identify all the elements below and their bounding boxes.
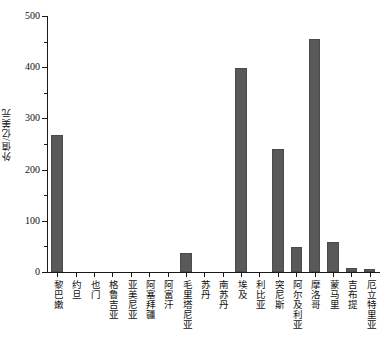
x-axis-tick [351, 273, 352, 277]
x-axis-label: 阿富汗 [163, 280, 173, 310]
y-axis-tick-label-wrap: 200 [12, 170, 40, 171]
x-axis-tick [131, 273, 132, 277]
y-axis-tick-major [42, 67, 47, 68]
y-axis-tick-label-wrap: 0 [12, 272, 40, 273]
y-axis-tick-label: 100 [14, 215, 40, 226]
x-axis-tick [112, 273, 113, 277]
x-axis-tick [315, 273, 316, 277]
bar [346, 268, 357, 272]
y-axis-tick-label-wrap: 100 [12, 221, 40, 222]
y-axis-tick-label: 0 [14, 266, 40, 277]
x-axis-label: 阿尔及利亚 [292, 280, 302, 330]
x-axis-tick [333, 273, 334, 277]
x-axis-tick [168, 273, 169, 277]
x-axis-label: 亚美尼亚 [126, 280, 136, 320]
bar [272, 149, 283, 272]
x-axis-label: 苏丹 [200, 280, 210, 300]
y-axis-tick-minor [44, 42, 47, 43]
y-axis-tick-label-wrap: 500 [12, 16, 40, 17]
plot-area [48, 16, 379, 272]
x-axis-label: 约旦 [71, 280, 81, 300]
x-axis-tick [370, 273, 371, 277]
y-axis-tick-major [42, 16, 47, 17]
x-axis-label: 摩洛哥 [310, 280, 320, 310]
x-axis-tick [259, 273, 260, 277]
y-axis-tick-major [42, 272, 47, 273]
y-axis-tick-label-wrap: 300 [12, 118, 40, 119]
bar-chart-figure: 外值/亿美元 0100200300400500 黎巴嫩约旦也门格鲁吉亚亚美尼亚阿… [0, 0, 383, 348]
x-axis-tick [223, 273, 224, 277]
x-axis-label: 蒙马里 [328, 280, 338, 310]
bar [51, 135, 62, 272]
x-axis-label: 吉布提 [347, 280, 357, 310]
x-axis-label: 利比亚 [255, 280, 265, 310]
x-axis-tick [149, 273, 150, 277]
y-axis-tick-label: 200 [14, 164, 40, 175]
x-axis-label: 厄立特里亚 [365, 280, 375, 330]
bar [235, 68, 246, 272]
bar [327, 242, 338, 272]
x-axis-tick [204, 273, 205, 277]
bar [309, 39, 320, 272]
x-axis-label: 格鲁吉亚 [108, 280, 118, 320]
y-axis-tick-label: 400 [14, 61, 40, 72]
bar [180, 253, 191, 272]
y-axis-tick-label: 300 [14, 112, 40, 123]
x-axis-label: 南苏丹 [218, 280, 228, 310]
x-axis-tick [296, 273, 297, 277]
x-axis-tick [186, 273, 187, 277]
x-axis-tick [76, 273, 77, 277]
y-axis-tick-major [42, 118, 47, 119]
y-axis-tick-minor [44, 246, 47, 247]
bar [291, 247, 302, 272]
y-axis-tick-label-wrap: 400 [12, 67, 40, 68]
y-axis-tick-minor [44, 144, 47, 145]
y-axis-tick-minor [44, 93, 47, 94]
x-axis-line [47, 272, 380, 273]
bar [364, 269, 375, 272]
y-axis-title: 外值/亿美元 [0, 0, 14, 268]
y-axis-tick-major [42, 170, 47, 171]
x-axis-label: 阿塞拜疆 [144, 280, 154, 320]
y-axis-tick-major [42, 221, 47, 222]
y-axis-tick-label: 500 [14, 10, 40, 21]
x-axis-label: 埃及 [236, 280, 246, 300]
x-axis-tick [57, 273, 58, 277]
x-axis-label: 也门 [89, 280, 99, 300]
x-axis-tick [241, 273, 242, 277]
y-axis-tick-minor [44, 195, 47, 196]
x-axis-tick [94, 273, 95, 277]
x-axis-label: 突尼斯 [273, 280, 283, 310]
y-axis-title-text: 外值/亿美元 [0, 108, 14, 161]
x-axis-label: 毛里塔尼亚 [181, 280, 191, 330]
x-axis-label: 黎巴嫩 [52, 280, 62, 310]
x-axis-tick [278, 273, 279, 277]
